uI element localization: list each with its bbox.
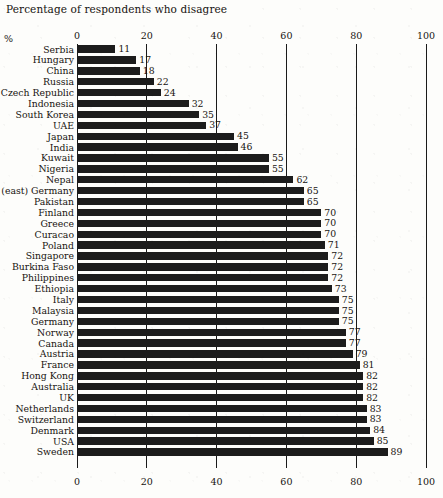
category-label: (east) Germany — [1, 185, 74, 196]
category-label: Japan — [47, 131, 74, 142]
bar-value-label: 17 — [139, 54, 151, 65]
category-label: Finland — [38, 207, 74, 218]
bar-row: Philippines72 — [0, 273, 443, 284]
bar — [77, 231, 321, 238]
bar-value-label: 71 — [328, 239, 340, 250]
x-tick-label-bottom: 100 — [417, 476, 435, 487]
x-tick-label-bottom: 60 — [280, 476, 292, 487]
bar-value-label: 77 — [349, 337, 361, 348]
bar-row: Nepal62 — [0, 175, 443, 186]
category-label: Switzerland — [18, 414, 74, 425]
bar — [77, 350, 353, 357]
category-label: Sweden — [37, 446, 74, 457]
category-label: Indonesia — [28, 98, 74, 109]
category-label: Russia — [43, 76, 74, 87]
category-label: Italy — [53, 294, 74, 305]
bar-row: Ethiopia73 — [0, 284, 443, 295]
bar-row: Hungary17 — [0, 55, 443, 66]
bar-value-label: 75 — [342, 305, 354, 316]
x-tick-label-bottom: 80 — [350, 476, 362, 487]
category-label: South Korea — [16, 109, 74, 120]
bar-value-label: 75 — [342, 315, 354, 326]
category-label: Austria — [40, 348, 74, 359]
bar — [77, 198, 304, 205]
bar-row: Japan45 — [0, 131, 443, 142]
bar-value-label: 65 — [307, 185, 319, 196]
bar-value-label: 70 — [324, 207, 336, 218]
bar-row: Czech Republic24 — [0, 88, 443, 99]
bar-row: Austria79 — [0, 349, 443, 360]
bar-row: Germany75 — [0, 316, 443, 327]
bar-value-label: 45 — [237, 130, 249, 141]
axis-unit-label: % — [4, 33, 13, 44]
bar-value-label: 82 — [366, 381, 378, 392]
bar-row: Norway77 — [0, 327, 443, 338]
x-tick-label-top: 20 — [141, 30, 153, 41]
category-label: USA — [53, 436, 74, 447]
bar-value-label: 83 — [370, 413, 382, 424]
bar-value-label: 82 — [366, 370, 378, 381]
chart-title: Percentage of respondents who disagree — [6, 3, 227, 15]
bar-value-label: 89 — [391, 446, 403, 457]
bar-value-label: 11 — [118, 43, 130, 54]
category-label: Hungary — [33, 54, 74, 65]
bar-row: Singapore72 — [0, 251, 443, 262]
bar — [77, 45, 115, 52]
category-label: France — [41, 359, 74, 370]
bar — [77, 143, 238, 150]
bar — [77, 394, 363, 401]
bar-row: Sweden89 — [0, 447, 443, 458]
bar-value-label: 62 — [296, 174, 308, 185]
bar — [77, 252, 328, 259]
category-label: Curacao — [35, 229, 74, 240]
bar — [77, 416, 367, 423]
bar — [77, 296, 339, 303]
x-tick-label-bottom: 40 — [211, 476, 223, 487]
bar — [77, 241, 325, 248]
bar — [77, 67, 140, 74]
category-label: Kuwait — [41, 152, 74, 163]
bar-row: Curacao70 — [0, 229, 443, 240]
bar — [77, 427, 370, 434]
category-label: Hong Kong — [21, 370, 74, 381]
bar-value-label: 37 — [209, 119, 221, 130]
category-label: Australia — [31, 381, 74, 392]
bar-row: India46 — [0, 142, 443, 153]
x-tick-label-top: 80 — [350, 30, 362, 41]
category-label: India — [50, 142, 74, 153]
bar — [77, 318, 339, 325]
category-label: Pakistan — [34, 196, 74, 207]
bar — [77, 187, 304, 194]
bar — [77, 263, 328, 270]
bar-row: Nigeria55 — [0, 164, 443, 175]
bar-value-label: 24 — [164, 87, 176, 98]
bar-row: South Korea35 — [0, 109, 443, 120]
bar-row: Poland71 — [0, 240, 443, 251]
bar-value-label: 35 — [202, 109, 214, 120]
bar-row: Canada77 — [0, 338, 443, 349]
bar-value-label: 79 — [356, 348, 368, 359]
bar-value-label: 77 — [349, 326, 361, 337]
bar — [77, 329, 346, 336]
bar-value-label: 18 — [143, 65, 155, 76]
bar-row: UAE37 — [0, 120, 443, 131]
category-label: Malaysia — [32, 305, 74, 316]
x-tick-label-bottom: 0 — [74, 476, 80, 487]
category-label: Nepal — [46, 174, 74, 185]
bar — [77, 122, 206, 129]
bar-row: Indonesia32 — [0, 98, 443, 109]
bar — [77, 209, 321, 216]
bar-value-label: 75 — [342, 294, 354, 305]
category-label: Germany — [31, 316, 74, 327]
bar — [77, 285, 332, 292]
bar-value-label: 55 — [272, 152, 284, 163]
bar — [77, 372, 363, 379]
bar — [77, 339, 346, 346]
bar — [77, 176, 293, 183]
bar-chart: Percentage of respondents who disagree %… — [0, 0, 443, 498]
bar — [77, 448, 388, 455]
category-label: Serbia — [43, 44, 74, 55]
bar-row: USA85 — [0, 436, 443, 447]
bar-value-label: 55 — [272, 163, 284, 174]
x-tick-label-bottom: 20 — [141, 476, 153, 487]
